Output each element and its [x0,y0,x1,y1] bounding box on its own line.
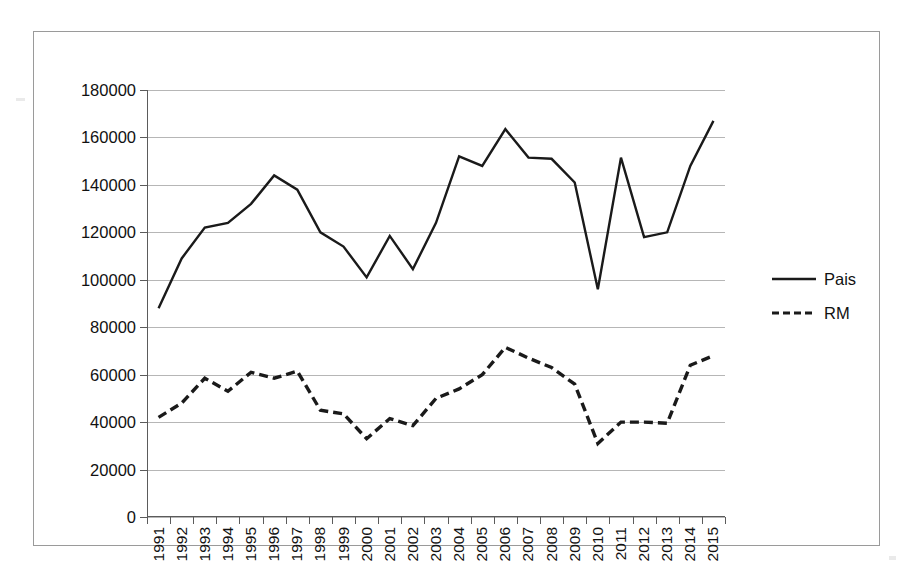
x-tick-label: 2006 [497,527,513,561]
y-tick-label: 160000 [81,129,136,146]
x-tick-mark [563,517,564,524]
x-tick-mark [355,517,356,524]
y-tick-mark [140,517,147,518]
legend-item-pais: Pais [772,262,882,296]
y-tick-label: 20000 [90,461,136,478]
x-tick-label: 1999 [336,527,352,561]
y-tick-mark [140,185,147,186]
scan-artifact [889,556,896,560]
y-tick-label: 120000 [81,224,136,241]
x-tick-mark [586,517,587,524]
y-tick-label: 80000 [90,319,136,336]
legend-label-pais: Pais [824,271,856,288]
gridline [147,517,725,518]
x-tick-label: 2005 [474,527,490,561]
x-tick-mark [170,517,171,524]
x-tick-mark [147,517,148,524]
x-tick-mark [309,517,310,524]
x-tick-mark [378,517,379,524]
x-tick-label: 2012 [636,527,652,561]
x-tick-mark [193,517,194,524]
legend-item-rm: RM [772,296,882,330]
chart-frame: 1800001600001400001200001000008000060000… [33,31,880,546]
y-tick-label: 140000 [81,177,136,194]
x-tick-label: 2013 [659,527,675,561]
x-tick-label: 1995 [243,527,259,561]
y-tick-mark [140,90,147,91]
chart-legend: Pais RM [772,262,882,330]
x-tick-label: 2010 [590,527,606,561]
x-tick-label: 1991 [151,527,167,561]
x-tick-mark [448,517,449,524]
x-tick-label: 1997 [289,527,305,561]
plot-area: 1800001600001400001200001000008000060000… [147,90,725,517]
x-tick-mark [517,517,518,524]
legend-label-rm: RM [824,305,850,322]
y-tick-mark [140,280,147,281]
plot-border [147,90,725,517]
y-tick-mark [140,137,147,138]
x-tick-label: 2001 [382,527,398,561]
x-tick-label: 1993 [197,527,213,561]
x-tick-label: 2014 [682,527,698,561]
x-tick-label: 1996 [266,527,282,561]
y-tick-label: 180000 [81,82,136,99]
x-tick-mark [332,517,333,524]
x-tick-label: 2015 [705,527,721,561]
x-tick-label: 2000 [359,527,375,561]
y-tick-label: 0 [127,509,136,526]
y-tick-mark [140,327,147,328]
y-tick-mark [140,470,147,471]
scan-artifact [16,98,25,101]
x-tick-mark [263,517,264,524]
x-tick-mark [633,517,634,524]
legend-line-dashed-icon [772,307,816,319]
x-tick-label: 2002 [405,527,421,561]
x-tick-label: 1998 [312,527,328,561]
y-tick-mark [140,422,147,423]
x-tick-mark [401,517,402,524]
x-tick-label: 2009 [567,527,583,561]
x-tick-label: 2011 [613,527,629,560]
x-tick-label: 2008 [544,527,560,561]
x-tick-mark [471,517,472,524]
x-tick-mark [609,517,610,524]
x-tick-mark [725,517,726,524]
x-tick-mark [216,517,217,524]
x-tick-label: 1994 [220,527,236,561]
x-tick-mark [679,517,680,524]
y-tick-mark [140,375,147,376]
y-tick-mark [140,232,147,233]
x-tick-mark [702,517,703,524]
x-tick-mark [540,517,541,524]
legend-line-solid-icon [772,273,816,285]
x-tick-label: 2007 [520,527,536,561]
x-tick-mark [239,517,240,524]
x-tick-mark [494,517,495,524]
y-tick-label: 60000 [90,366,136,383]
x-tick-label: 2003 [428,527,444,561]
x-tick-mark [656,517,657,524]
y-tick-label: 40000 [90,414,136,431]
x-tick-label: 2004 [451,527,467,561]
x-tick-mark [286,517,287,524]
x-tick-label: 1992 [174,527,190,561]
x-tick-mark [424,517,425,524]
chart-screenshot: 1800001600001400001200001000008000060000… [0,0,914,571]
y-tick-label: 100000 [81,272,136,289]
